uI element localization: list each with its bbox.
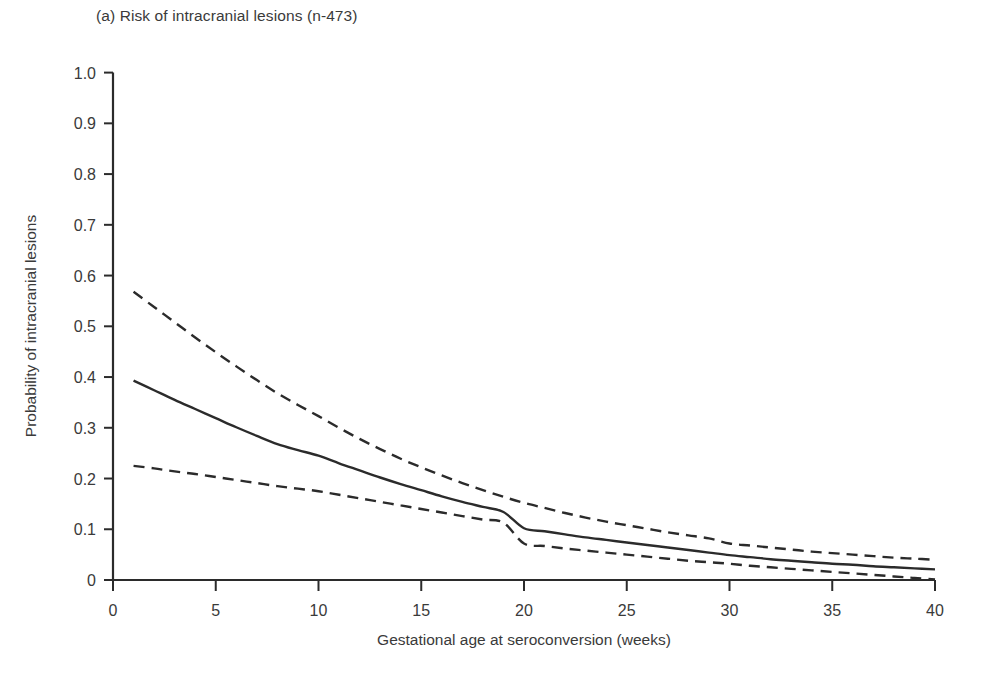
axis-layer (104, 73, 935, 591)
y-axis-tick-label: 0.3 (74, 420, 96, 437)
y-axis-tick-label: 0.7 (74, 217, 96, 234)
x-axis-tick-label: 15 (412, 602, 430, 619)
x-axis-tick-label: 25 (618, 602, 636, 619)
x-axis-tick-label: 40 (926, 602, 944, 619)
y-axis-tick-label: 0.2 (74, 471, 96, 488)
x-axis-tick-label: 5 (211, 602, 220, 619)
series-layer (134, 292, 935, 580)
figure-container: (a) Risk of intracranial lesions (n-473)… (0, 0, 981, 676)
y-axis-tick-label: 0.5 (74, 318, 96, 335)
y-axis-tick-label: 0 (87, 572, 96, 589)
x-axis-tick-label: 0 (109, 602, 118, 619)
series-line-0 (134, 292, 935, 560)
series-line-1 (134, 381, 935, 570)
y-axis-tick-label: 0.9 (74, 115, 96, 132)
y-axis-tick-label: 0.6 (74, 268, 96, 285)
y-axis-tick-label: 0.1 (74, 521, 96, 538)
y-axis-tick-label: 1.0 (74, 65, 96, 82)
x-axis-tick-label: 10 (310, 602, 328, 619)
y-axis-tick-label: 0.8 (74, 166, 96, 183)
x-axis-tick-label: 30 (721, 602, 739, 619)
x-axis-tick-label: 20 (515, 602, 533, 619)
risk-of-intracranial-lesions-chart: 00.10.20.30.40.50.60.70.80.91.0051015202… (0, 0, 981, 676)
x-axis-tick-label: 35 (823, 602, 841, 619)
y-axis-title: Probability of intracranial lesions (22, 215, 39, 438)
y-axis-tick-label: 0.4 (74, 369, 96, 386)
tick-label-layer: 00.10.20.30.40.50.60.70.80.91.0051015202… (74, 65, 944, 619)
x-axis-title: Gestational age at seroconversion (weeks… (377, 631, 671, 648)
